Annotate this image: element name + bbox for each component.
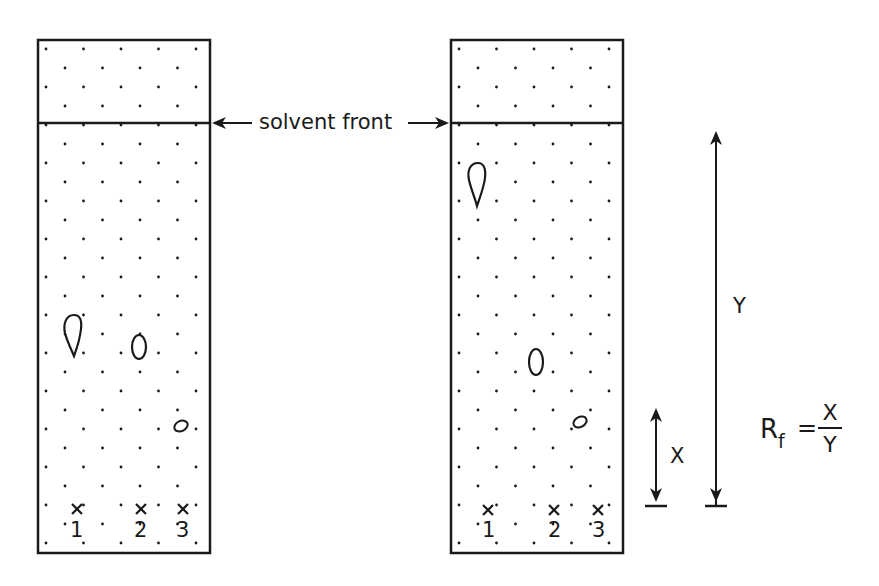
rf-formula: R f = X Y: [760, 404, 850, 464]
tlc-diagram: [0, 0, 879, 586]
lane-label-1-left: 1: [70, 520, 83, 541]
lane-label-2-left: 2: [134, 520, 147, 541]
lane-label-2-right: 2: [548, 520, 561, 541]
rf-symbol: R: [760, 414, 778, 444]
x-measurement: [645, 410, 667, 506]
lane-label-3-right: 3: [592, 520, 605, 541]
formula-numerator: X: [819, 400, 841, 425]
equals-sign: =: [797, 414, 817, 442]
solvent-front-label: solvent front: [259, 112, 392, 133]
formula-denominator: Y: [819, 432, 841, 457]
fraction-bar: [818, 427, 842, 429]
tlc-plate-right: [451, 40, 623, 553]
rf-subscript: f: [778, 430, 785, 452]
y-measurement: [705, 133, 727, 506]
lane-label-1-right: 1: [482, 520, 495, 541]
y-distance-label: Y: [733, 296, 746, 317]
tlc-plate-left: [38, 40, 210, 553]
lane-label-3-left: 3: [176, 520, 189, 541]
spot-ellipse-lane2-right: [529, 349, 543, 375]
x-distance-label: X: [670, 446, 684, 467]
spot-ellipse-lane2-left: [132, 335, 146, 359]
